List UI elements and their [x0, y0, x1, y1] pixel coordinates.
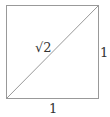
diagonal-label: √2	[35, 40, 52, 55]
right-side-label: 1	[100, 45, 108, 60]
diagonal-line	[7, 6, 99, 99]
square-diagram: √2 1 1	[0, 0, 110, 117]
bottom-side-label: 1	[49, 101, 57, 116]
